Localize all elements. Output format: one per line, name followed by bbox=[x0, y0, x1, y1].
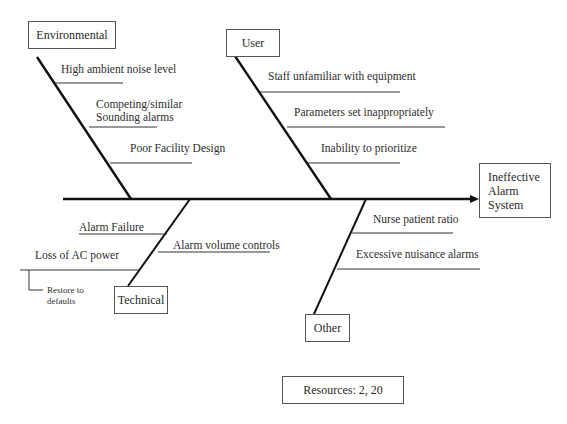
sub-cause-label: Restore to bbox=[47, 285, 84, 296]
cause-label: Poor Facility Design bbox=[130, 142, 225, 155]
cause-label: Inability to prioritize bbox=[321, 142, 417, 155]
bone-environmental bbox=[37, 57, 131, 199]
category-environmental: Environmental bbox=[28, 21, 116, 49]
category-label: Other bbox=[314, 321, 341, 335]
cause-label: Excessive nuisance alarms bbox=[356, 248, 479, 261]
cause-label: Competing/similar bbox=[96, 98, 182, 111]
category-label: Environmental bbox=[36, 28, 107, 42]
category-technical: Technical bbox=[114, 286, 168, 314]
category-other: Other bbox=[305, 314, 350, 342]
cause-label: Staff unfamiliar with equipment bbox=[268, 70, 416, 83]
resources-box: Resources: 2, 20 bbox=[282, 376, 404, 404]
effect-label: Ineffective Alarm System bbox=[488, 170, 540, 212]
cause-label: Alarm Failure bbox=[79, 221, 144, 234]
category-label: Technical bbox=[118, 293, 164, 307]
category-label: User bbox=[242, 36, 265, 50]
truncated-caption bbox=[14, 416, 554, 424]
cause-label: Nurse patient ratio bbox=[373, 213, 459, 226]
cause-label: Alarm volume controls bbox=[173, 239, 280, 252]
cause-label: High ambient noise level bbox=[61, 63, 176, 76]
category-user: User bbox=[226, 29, 280, 57]
cause-label: Parameters set inappropriately bbox=[294, 106, 434, 119]
sub-cause-label: defaults bbox=[47, 296, 76, 307]
resources-label: Resources: 2, 20 bbox=[303, 383, 383, 397]
spine-arrowhead-icon bbox=[470, 195, 479, 203]
fishbone-diagram: Environmental User Technical Other Ineff… bbox=[0, 0, 567, 424]
cause-label: Loss of AC power bbox=[35, 249, 119, 262]
effect-box: Ineffective Alarm System bbox=[479, 163, 551, 218]
cause-label: Sounding alarms bbox=[96, 111, 174, 124]
